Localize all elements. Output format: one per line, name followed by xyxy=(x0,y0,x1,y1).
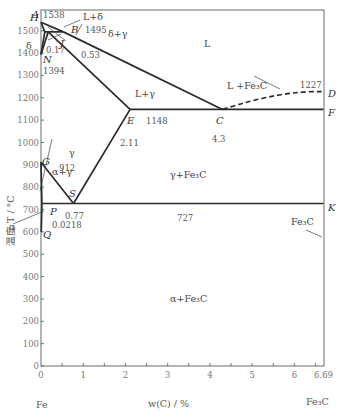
region-L: L xyxy=(204,38,211,49)
x-tick-label-0: 0 xyxy=(38,370,43,380)
region-alpha-Fe3C: α+Fe₃C xyxy=(170,293,207,304)
x-axis-label: w(C) / % xyxy=(148,398,189,409)
line-E-S xyxy=(74,109,131,203)
y-axis-label: 温度 T / °C xyxy=(5,195,16,246)
point-label-G: G xyxy=(42,156,50,167)
y-tick-label-300: 300 xyxy=(23,294,39,304)
y-tick-label-200: 200 xyxy=(23,316,39,326)
y-tick-label-400: 400 xyxy=(23,272,39,282)
y-tick-label-1100: 1100 xyxy=(17,115,39,125)
region-gamma: γ xyxy=(69,147,75,158)
point-label-K: K xyxy=(327,202,336,213)
value-4.3: 4.3 xyxy=(212,134,226,144)
point-label-N: N xyxy=(42,54,53,65)
y-tick-label-100: 100 xyxy=(23,339,39,349)
value-2.11: 2.11 xyxy=(120,138,139,148)
point-label-A: A xyxy=(31,9,39,20)
x-tick-label-3: 3 xyxy=(165,370,170,380)
region-delta: δ xyxy=(26,40,32,51)
value-1495: 1495 xyxy=(85,25,107,35)
region-L-gamma: L+γ xyxy=(135,88,155,99)
value-0.17: 0.17 xyxy=(46,45,65,55)
point-label-D: D xyxy=(327,88,336,99)
y-tick-label-500: 500 xyxy=(23,249,39,259)
y-tick-label-1200: 1200 xyxy=(17,93,39,103)
x-tick-label-4: 4 xyxy=(207,370,212,380)
x-tick-label-1: 1 xyxy=(81,370,86,380)
point-label-S: S xyxy=(69,188,76,199)
y-axis-ticks: 0100200300400500600700800900100011001200… xyxy=(17,26,44,371)
value-1148: 1148 xyxy=(146,116,168,126)
y-tick-label-1000: 1000 xyxy=(17,138,39,148)
region-alpha-gamma: α+γ xyxy=(52,166,72,177)
value-0.53: 0.53 xyxy=(81,50,100,60)
point-labels: H A B J N E C F D G S P K Q xyxy=(29,9,336,240)
value-1538: 1538 xyxy=(43,10,65,20)
value-727: 727 xyxy=(177,213,193,223)
y-tick-label-900: 900 xyxy=(23,160,39,170)
line-C-D xyxy=(223,92,324,110)
value-1394: 1394 xyxy=(43,66,65,76)
y-tick-label-600: 600 xyxy=(23,227,39,237)
point-label-B: B xyxy=(70,24,78,35)
line-P-Q xyxy=(41,204,42,232)
region-L-Fe3C: L +Fe₃C xyxy=(227,80,267,91)
component-fe: Fe xyxy=(36,399,48,410)
y-tick-label-1300: 1300 xyxy=(17,70,39,80)
value-1227: 1227 xyxy=(300,80,322,90)
region-Fe3C: Fe₃C xyxy=(291,216,314,227)
point-label-F: F xyxy=(327,107,336,118)
fe-fe3c-phase-diagram: 0100200300400500600700800900100011001200… xyxy=(0,0,340,418)
value-0.0218: 0.0218 xyxy=(52,220,82,230)
x-tick-label-2: 2 xyxy=(123,370,128,380)
y-tick-label-700: 700 xyxy=(23,205,39,215)
point-label-Q: Q xyxy=(43,229,51,240)
region-L-delta: L+δ xyxy=(83,11,103,22)
point-label-P: P xyxy=(49,206,57,217)
point-label-C: C xyxy=(216,115,224,126)
y-tick-label-800: 800 xyxy=(23,182,39,192)
x-tick-label-5: 5 xyxy=(249,370,254,380)
point-label-E: E xyxy=(126,115,135,126)
x-tick-label-6: 6 xyxy=(292,370,297,380)
y-tick-label-1500: 1500 xyxy=(17,26,39,36)
region-gamma-Fe3C: γ+Fe₃C xyxy=(170,169,206,180)
component-fe3c: Fe₃C xyxy=(306,396,329,407)
leader-Fe3C xyxy=(306,230,322,237)
x-tick-label-6.69: 6.69 xyxy=(314,370,333,380)
region-delta-gamma: δ+γ xyxy=(108,28,128,39)
